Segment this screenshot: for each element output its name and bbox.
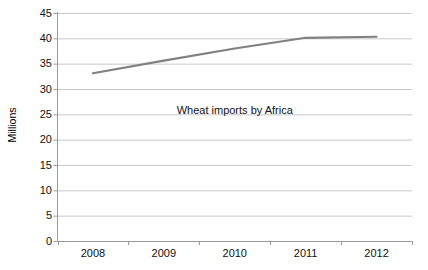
line-chart: Millions 051015202530354045 200820092010… <box>0 0 428 270</box>
data-series-line <box>93 37 377 73</box>
y-axis-ticks <box>54 14 58 242</box>
series-annotation-label: Wheat imports by Africa <box>177 104 293 116</box>
plot-area <box>0 0 428 270</box>
